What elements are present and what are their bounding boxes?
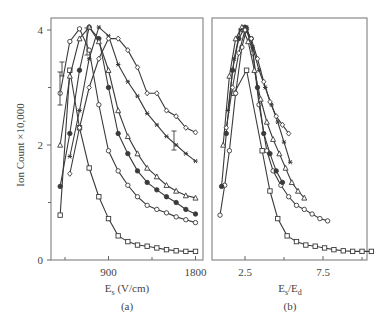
filled-circle-marker (262, 131, 266, 135)
square-marker (155, 246, 159, 250)
panel-b-xlabel: Es/Ed (278, 282, 302, 297)
circle-marker (68, 39, 72, 43)
square-marker (164, 247, 168, 251)
series-line (234, 70, 371, 251)
square-marker (260, 149, 264, 153)
error-bar (58, 72, 63, 105)
circle-marker (97, 103, 101, 107)
triangle-marker (271, 137, 276, 142)
filled-circle-marker (116, 131, 120, 135)
square-marker (58, 213, 62, 217)
circle-marker (126, 183, 130, 187)
filled-circle-marker (126, 151, 130, 155)
x-tick-label: 2.5 (238, 266, 252, 278)
triangle-marker (135, 151, 140, 156)
triangle-marker (227, 73, 232, 78)
series-square (232, 68, 374, 254)
series-diamond (68, 36, 198, 176)
circle-marker (318, 216, 322, 220)
square-marker (184, 249, 188, 253)
circle-marker (145, 203, 149, 207)
square-marker (193, 249, 197, 253)
circle-marker (135, 195, 139, 199)
circle-marker (233, 91, 237, 95)
square-marker (369, 249, 373, 253)
diamond-marker (97, 56, 101, 61)
triangle-marker (174, 188, 179, 193)
panel-a-series (58, 24, 199, 253)
asterisk-marker (174, 143, 178, 147)
square-marker (313, 244, 317, 248)
asterisk-marker (155, 123, 159, 127)
filled-circle-marker (268, 151, 272, 155)
filled-circle-marker (174, 200, 178, 204)
filled-circle-marker (193, 212, 197, 216)
square-marker (126, 239, 130, 243)
square-marker (268, 189, 272, 193)
triangle-marker (289, 180, 294, 185)
series-line (70, 27, 196, 161)
panel-b-series (218, 24, 374, 253)
error-bar (172, 131, 177, 150)
filled-circle-marker (106, 85, 110, 89)
series-square (58, 68, 198, 254)
square-marker (87, 166, 91, 170)
circle-marker (325, 219, 329, 223)
circle-marker (155, 207, 159, 211)
triangle-marker (277, 151, 282, 156)
triangle-marker (125, 134, 130, 139)
series-diamond (224, 27, 291, 136)
filled-circle-marker (135, 169, 139, 173)
asterisk-marker (126, 80, 130, 84)
triangle-marker (264, 119, 269, 124)
y-axis-label: Ion Count ×10,000 (14, 103, 26, 187)
filled-circle-marker (68, 131, 72, 135)
square-marker (341, 249, 345, 253)
panel-a-caption: (a) (121, 300, 134, 313)
triangle-marker (58, 142, 63, 147)
filled-circle-marker (155, 188, 159, 192)
triangle-marker (106, 68, 111, 73)
triangle-marker (183, 193, 188, 198)
panel-a: 9001800024 Es (V/cm) (a) (38, 18, 208, 313)
asterisk-marker (193, 159, 197, 163)
filled-circle-marker (280, 180, 284, 184)
chart-svg: Ion Count ×10,000 9001800024 Es (V/cm) (… (0, 0, 387, 330)
square-marker (332, 247, 336, 251)
square-marker (244, 68, 248, 72)
series-line (220, 29, 328, 221)
panel-a-xlabel: Es (V/cm) (105, 282, 150, 297)
filled-circle-marker (184, 207, 188, 211)
filled-circle-marker (274, 169, 278, 173)
filled-circle-marker (145, 180, 149, 184)
filled-circle-marker (219, 184, 223, 188)
circle-marker (116, 169, 120, 173)
square-marker (145, 244, 149, 248)
circle-marker (310, 212, 314, 216)
figure: Ion Count ×10,000 9001800024 Es (V/cm) (… (0, 0, 387, 330)
square-marker (135, 243, 139, 247)
circle-marker (106, 149, 110, 153)
filled-circle-marker (58, 184, 62, 188)
square-marker (360, 249, 364, 253)
square-marker (97, 195, 101, 199)
triangle-marker (67, 73, 72, 78)
x-tick-label: 7.5 (316, 266, 330, 278)
filled-circle-marker (164, 195, 168, 199)
square-marker (285, 234, 289, 238)
circle-marker (193, 220, 197, 224)
panel-b-caption: (b) (284, 300, 297, 313)
square-marker (276, 216, 280, 220)
circle-marker (302, 207, 306, 211)
triangle-marker (283, 165, 288, 170)
triangle-marker (116, 108, 121, 113)
square-marker (304, 243, 308, 247)
panel-b-axes: 2.57.5 (238, 256, 362, 278)
circle-marker (77, 27, 81, 31)
asterisk-marker (145, 111, 149, 115)
triangle-marker (193, 195, 198, 200)
circle-marker (294, 203, 298, 207)
triangle-marker (252, 68, 257, 73)
diamond-marker (145, 91, 149, 96)
circle-marker (286, 195, 290, 199)
